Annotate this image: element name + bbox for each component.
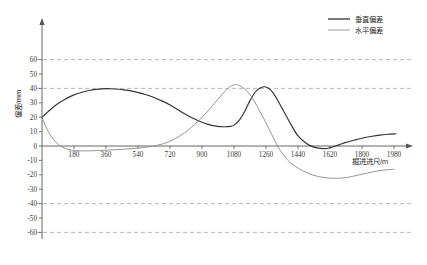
x-tick-label-900: 900 [197, 151, 208, 159]
data-series-group [42, 85, 396, 179]
x-tick-label-1260: 1260 [259, 151, 274, 159]
y-tick-label--60: -60 [27, 229, 37, 237]
x-tick-label-180: 180 [69, 151, 80, 159]
deviation-line-chart: 6050403020100-10-20-30-40-50-60 18036054… [0, 0, 427, 265]
y-tick-label-20: 20 [30, 114, 38, 122]
legend-label-1: 水平偏差 [355, 26, 383, 35]
chart-container: 6050403020100-10-20-30-40-50-60 18036054… [0, 0, 427, 265]
x-tick-label-1080: 1080 [227, 151, 242, 159]
x-tick-label-1620: 1620 [323, 151, 338, 159]
y-tick-label--10: -10 [27, 157, 37, 165]
series-line-horizontal-deviation [42, 85, 394, 179]
x-tick-label-1440: 1440 [291, 151, 306, 159]
y-tick-label--30: -30 [27, 186, 37, 194]
y-tick-label-0: 0 [33, 143, 37, 151]
y-axis-arrow [39, 18, 44, 25]
x-tick-label-720: 720 [165, 151, 176, 159]
x-axis-arrow [406, 143, 413, 148]
x-tick-label-1980: 1980 [387, 151, 402, 159]
y-tick-label-60: 60 [30, 56, 38, 64]
axis-lines-group [39, 18, 413, 239]
y-tick-label-30: 30 [30, 99, 38, 107]
y-tick-label--40: -40 [27, 200, 37, 208]
y-axis-ticks: 6050403020100-10-20-30-40-50-60 [27, 56, 42, 237]
y-tick-label-40: 40 [30, 85, 38, 93]
x-tick-label-540: 540 [133, 151, 144, 159]
y-tick-label--20: -20 [27, 171, 37, 179]
y-tick-label--50: -50 [27, 215, 37, 223]
y-tick-label-50: 50 [30, 71, 38, 79]
series-line-vertical-deviation [42, 87, 396, 149]
legend-label-0: 垂直偏差 [355, 15, 383, 24]
y-tick-label-10: 10 [30, 128, 38, 136]
chart-legend: 垂直偏差水平偏差 [328, 15, 383, 35]
x-axis-title: 掘进进尺/m [352, 157, 388, 166]
x-tick-label-360: 360 [101, 151, 112, 159]
y-axis-title: 偏差/mm [14, 90, 23, 118]
